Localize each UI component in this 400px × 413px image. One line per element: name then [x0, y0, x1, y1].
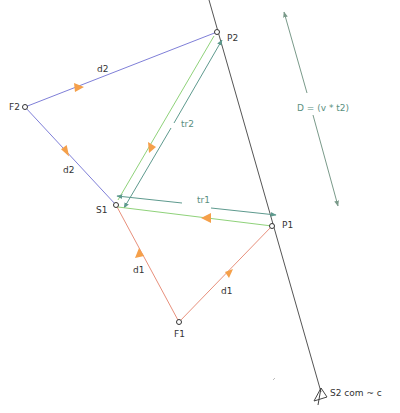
- tr2-green-line: [118, 36, 214, 200]
- label-s1: S1: [96, 205, 107, 215]
- arrowhead-tr2: [148, 142, 156, 153]
- label-tr1: tr1: [197, 195, 210, 205]
- label-f2: F2: [9, 102, 20, 112]
- label-p2: P2: [227, 33, 238, 43]
- label-d1-left: d1: [133, 265, 144, 275]
- d2-left-line: [25, 107, 116, 205]
- d1-right-line: [179, 226, 272, 322]
- point-p1-marker[interactable]: [270, 224, 275, 229]
- tr1-dimension-arrow-right: [211, 208, 276, 215]
- d2-top-line: [25, 32, 217, 107]
- label-s2: S2 com ~ c: [330, 388, 382, 398]
- s2-trajectory-line: [209, 0, 321, 392]
- point-s1-marker[interactable]: [114, 203, 119, 208]
- label-d1-right: d1: [221, 286, 232, 296]
- tr1-dimension-arrow-left: [117, 196, 182, 203]
- label-d2-left: d2: [63, 165, 74, 175]
- label-p1: P1: [282, 220, 293, 230]
- label-tr2: tr2: [181, 119, 194, 129]
- arrowhead-tr1: [201, 213, 211, 223]
- diagram-canvas: P2 F2 S1 P1 F1 S2 com ~ c d2 d2 d1 d1 tr…: [0, 0, 400, 413]
- point-f1-marker[interactable]: [177, 320, 182, 325]
- tr1-green-line: [118, 207, 272, 226]
- d-formula-label: D = (v * t2): [297, 103, 349, 113]
- label-f1: F1: [174, 329, 185, 339]
- label-d2-top: d2: [97, 64, 108, 74]
- point-f2-marker[interactable]: [23, 105, 28, 110]
- arrowhead-d1-left: [135, 248, 144, 258]
- d-distance-arrow-lower: [313, 115, 338, 206]
- d1-left-line: [116, 205, 179, 322]
- point-p2-marker[interactable]: [215, 30, 220, 35]
- stray-mark: [273, 378, 275, 380]
- d-distance-arrow-upper: [284, 12, 307, 93]
- tr2-dimension-arrow-upper: [174, 40, 222, 123]
- tr2-dimension-arrow-lower: [124, 128, 171, 208]
